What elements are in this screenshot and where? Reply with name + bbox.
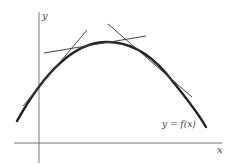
y-axis-label: y xyxy=(41,10,48,21)
tangent-line-top xyxy=(44,36,146,53)
curve-label: y = f(x) xyxy=(161,119,196,129)
x-axis-label: x xyxy=(217,144,223,155)
tangent-line-left xyxy=(23,30,87,106)
diagram-canvas: y x y = f(x) xyxy=(0,0,236,168)
tangent-line-right xyxy=(108,24,192,97)
